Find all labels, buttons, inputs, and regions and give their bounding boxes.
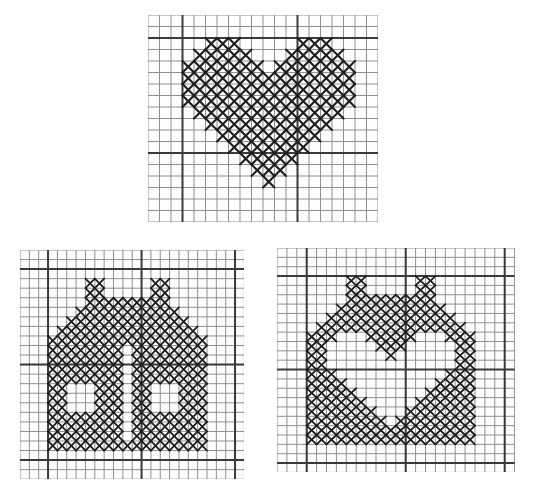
house-with-heart-stitch-chart [277, 248, 515, 472]
heart-chart-graphic [148, 15, 378, 222]
house-heart-chart-graphic [277, 248, 515, 472]
house-chart-graphic [20, 250, 244, 479]
scanned-pattern-page [0, 0, 534, 496]
heart-stitch-chart [148, 15, 378, 222]
house-stitch-chart [20, 250, 244, 479]
